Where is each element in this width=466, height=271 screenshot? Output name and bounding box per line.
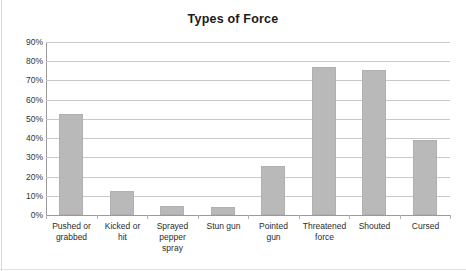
x-axis-label: Cursed <box>400 221 451 232</box>
x-label-line: gun <box>266 232 280 242</box>
y-tick-label: 50% <box>1 115 43 124</box>
x-label-line: Pointed <box>259 221 288 231</box>
x-axis-label: Shouted <box>349 221 400 232</box>
y-tick-label: 40% <box>1 134 43 143</box>
gridline-30 <box>46 157 450 158</box>
chart-title: Types of Force <box>0 12 466 26</box>
y-tick-label: 20% <box>1 173 43 182</box>
x-label-line: Pushed or <box>52 221 91 231</box>
y-axis-tick-labels: 90%80%70%60%50%40%30%20%10%0% <box>0 42 43 216</box>
y-tick-label: 80% <box>1 57 43 66</box>
chart-screenshot: Types of Force 90%80%70%60%50%40%30%20%1… <box>0 0 466 271</box>
gridline-90 <box>46 42 450 43</box>
gridline-40 <box>46 138 450 139</box>
x-tick-mark <box>147 215 148 219</box>
bar <box>413 140 437 215</box>
plot-area <box>46 42 450 215</box>
x-label-line: force <box>315 232 334 242</box>
x-tick-mark <box>248 215 249 219</box>
x-label-line: hit <box>118 232 127 242</box>
y-tick-label: 60% <box>1 96 43 105</box>
bar <box>261 166 285 215</box>
x-label-line: grabbed <box>56 232 87 242</box>
y-tick-label: 30% <box>1 153 43 162</box>
y-tick-label: 0% <box>1 211 43 220</box>
bar <box>59 114 83 215</box>
gridline-80 <box>46 61 450 62</box>
y-tick-label: 10% <box>1 192 43 201</box>
x-label-line: Shouted <box>359 221 391 231</box>
x-tick-mark <box>299 215 300 219</box>
gridline-50 <box>46 119 450 120</box>
x-label-line: spray <box>162 243 183 253</box>
x-axis-label: Stun gun <box>198 221 249 232</box>
x-axis-label: Pushed orgrabbed <box>46 221 97 243</box>
x-tick-mark <box>349 215 350 219</box>
x-tick-mark <box>46 215 47 219</box>
y-tick-label: 90% <box>1 38 43 47</box>
bar <box>362 70 386 215</box>
gridline-70 <box>46 80 450 81</box>
x-tick-mark <box>400 215 401 219</box>
x-label-line: Sprayed <box>157 221 189 231</box>
gridline-20 <box>46 177 450 178</box>
gridline-10 <box>46 196 450 197</box>
bar <box>110 191 134 215</box>
x-tick-mark <box>198 215 199 219</box>
x-label-line: Kicked or <box>105 221 140 231</box>
x-axis-category-labels: Pushed orgrabbedKicked orhitSprayedpeppe… <box>46 221 450 267</box>
x-axis-label: Kicked orhit <box>97 221 148 243</box>
x-label-line: pepper <box>159 232 185 242</box>
bar <box>211 207 235 215</box>
bar <box>160 206 184 215</box>
x-axis-label: Sprayedpepperspray <box>147 221 198 254</box>
frame-bottom-border <box>0 269 466 270</box>
x-label-line: Threatened <box>303 221 346 231</box>
x-axis-label: Pointedgun <box>248 221 299 243</box>
bar <box>312 67 336 215</box>
gridline-60 <box>46 100 450 101</box>
y-tick-label: 70% <box>1 76 43 85</box>
x-tick-mark <box>450 215 451 219</box>
x-label-line: Cursed <box>412 221 439 231</box>
x-tick-mark <box>97 215 98 219</box>
x-label-line: Stun gun <box>206 221 240 231</box>
x-axis-label: Threatenedforce <box>299 221 350 243</box>
